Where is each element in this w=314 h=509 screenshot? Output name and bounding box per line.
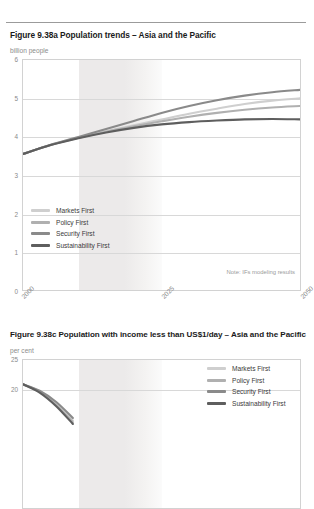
legend-label-sustainability-first: Sustainability First — [56, 242, 110, 249]
legend-label-security-first: Security First — [232, 388, 270, 395]
legend-item[interactable]: Security First — [207, 386, 286, 398]
figure-a-plot-area: 0123456 200020252050 Markets First Polic… — [22, 59, 301, 291]
series-line — [23, 384, 73, 424]
y-axis-tick-label: 25 — [2, 356, 18, 363]
figure-a-note: Note: IFs modeling results — [227, 269, 295, 275]
figure-a-legend: Markets First Policy First Security Firs… — [31, 205, 110, 251]
legend-label-policy-first: Policy First — [232, 377, 264, 384]
page-top-rule — [6, 22, 306, 23]
y-axis-tick-label: 0 — [2, 288, 18, 295]
legend-item[interactable]: Policy First — [207, 375, 286, 387]
legend-label-markets-first: Markets First — [56, 207, 94, 214]
y-axis-tick-label: 4 — [2, 133, 18, 140]
legend-swatch-markets-first — [207, 367, 226, 370]
legend-label-sustainability-first: Sustainability First — [232, 400, 286, 407]
series-line — [23, 119, 300, 154]
y-axis-tick-label: 20 — [2, 386, 18, 393]
legend-label-markets-first: Markets First — [232, 365, 270, 372]
legend-label-policy-first: Policy First — [56, 219, 88, 226]
legend-swatch-policy-first — [31, 221, 50, 224]
legend-swatch-markets-first — [31, 209, 50, 212]
series-line — [23, 98, 300, 154]
figure-a-series-lines — [23, 60, 300, 290]
legend-swatch-sustainability-first — [31, 244, 50, 247]
y-axis-tick-label: 6 — [2, 56, 18, 63]
figure-c-title: Figure 9.38c Population with income less… — [10, 330, 306, 339]
legend-swatch-sustainability-first — [207, 402, 226, 405]
legend-swatch-security-first — [207, 390, 226, 393]
legend-swatch-policy-first — [207, 379, 226, 382]
legend-item[interactable]: Markets First — [31, 205, 110, 217]
legend-item[interactable]: Security First — [31, 228, 110, 240]
figure-a-unit-label: billion people — [10, 47, 49, 54]
legend-item[interactable]: Markets First — [207, 363, 286, 375]
legend-item[interactable]: Sustainability First — [31, 240, 110, 252]
figure-c-unit-label: per cent — [10, 347, 34, 354]
legend-item[interactable]: Policy First — [31, 217, 110, 229]
figure-c-legend: Markets First Policy First Security Firs… — [207, 363, 286, 409]
y-axis-tick-label: 3 — [2, 172, 18, 179]
y-axis-tick-label: 2 — [2, 210, 18, 217]
x-axis-tick-label: 2050 — [299, 285, 314, 300]
figure-a-plot-frame — [22, 59, 301, 291]
figure-c-plot-area: 2025 Markets First Policy First Security… — [22, 359, 301, 509]
y-axis-tick-label: 5 — [2, 94, 18, 101]
legend-label-security-first: Security First — [56, 230, 94, 237]
y-axis-tick-label: 1 — [2, 249, 18, 256]
legend-swatch-security-first — [31, 232, 50, 235]
legend-item[interactable]: Sustainability First — [207, 398, 286, 410]
figure-a-title: Figure 9.38a Population trends – Asia an… — [10, 30, 216, 40]
